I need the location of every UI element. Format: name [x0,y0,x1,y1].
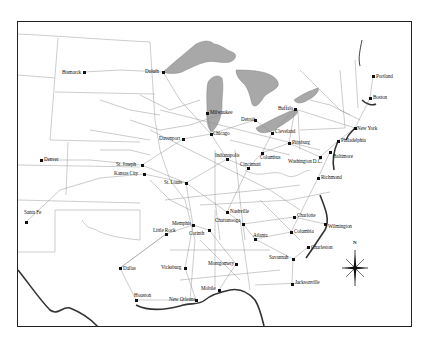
city-marker-icon [242,223,245,226]
city-label: Cincinnati [240,162,261,167]
city-marker-icon [288,142,291,145]
city-label: Wilmington [328,224,352,229]
city-label: Houston [134,293,151,298]
city-label: Atlanta [253,233,268,238]
city-label: St. Louis [164,180,182,185]
city-label: Charlotte [297,213,315,218]
maine-coast [359,40,362,66]
city-label: Indianapolis [215,153,239,158]
city-marker-icon [317,177,320,180]
city-marker-icon [185,182,188,185]
map-geography [0,0,429,343]
city-label: Richmond [321,175,342,180]
city-marker-icon [271,132,274,135]
city-marker-icon [293,216,296,219]
coastline [18,100,376,327]
compass-north-label: N [353,240,357,245]
city-marker-icon [329,151,332,154]
city-label: Chicago [213,131,230,136]
city-label: Mobile [201,286,215,291]
city-marker-icon [182,138,185,141]
rail-lines [26,70,373,300]
city-marker-icon [290,231,293,234]
city-marker-icon [119,267,122,270]
city-label: Columbia [294,229,314,234]
city-marker-icon [208,229,211,232]
city-label: Savannah [269,255,288,260]
city-label: Vicksburg [161,265,181,270]
city-marker-icon [25,221,28,224]
city-label: Denver [44,157,59,162]
city-label: New Orleans [169,297,195,302]
city-marker-icon [324,223,327,226]
city-label: Jacksonville [295,280,319,285]
city-label: Milwaukee [210,110,232,115]
city-label: Chattanooga [215,218,240,223]
railroad-map: BismarckDuluthPortlandBostonMilwaukeeDet… [0,0,429,343]
city-label: Philadelphia [341,138,366,143]
city-label: New York [357,126,377,131]
city-marker-icon [206,112,209,115]
city-marker-icon [307,246,310,249]
city-marker-icon [40,159,43,162]
city-label: Davenport [159,136,180,141]
city-marker-icon [143,173,146,176]
city-marker-icon [372,75,375,78]
compass-rose-icon [340,248,370,288]
city-label: Bismarck [62,70,81,75]
city-marker-icon [226,211,229,214]
city-label: Corinth [189,231,204,236]
city-marker-icon [141,164,144,167]
city-marker-icon [369,97,372,100]
city-marker-icon [291,283,294,286]
city-label: Kansas City [114,171,138,176]
city-label: Cleveland [275,129,295,134]
city-label: Nashville [230,209,249,214]
city-label: Washington D.C. [288,159,322,164]
city-marker-icon [218,289,221,292]
city-marker-icon [292,258,295,261]
city-label: Duluth [145,69,159,74]
city-label: St. Joseph [116,162,136,167]
city-label: Boston [373,95,387,100]
city-label: Buffalo [278,106,293,111]
city-marker-icon [83,71,86,74]
city-label: Pittsburg [292,140,310,145]
city-marker-icon [184,267,187,270]
city-marker-icon [135,299,138,302]
city-marker-icon [235,263,238,266]
city-label: Portland [376,74,393,79]
city-marker-icon [192,224,195,227]
city-label: Columbus [260,155,281,160]
city-label: Memphis [172,221,191,226]
city-label: Dallas [123,266,136,271]
city-marker-icon [337,140,340,143]
city-label: Little Rock [153,228,175,233]
city-marker-icon [294,108,297,111]
city-label: Detroit [241,117,255,122]
city-label: Santa Fe [24,210,41,215]
city-label: Charleston [311,245,332,250]
city-label: Montgomery [208,261,234,266]
city-label: Baltimore [333,154,353,159]
city-marker-icon [162,71,165,74]
